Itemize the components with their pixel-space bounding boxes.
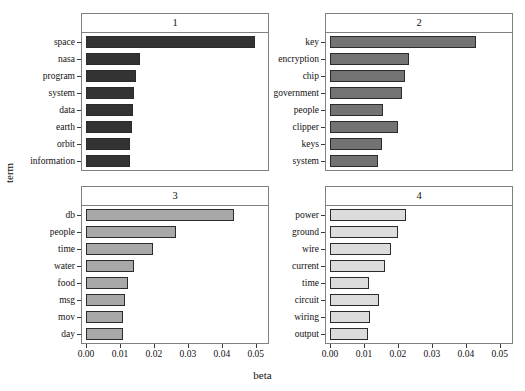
facet-strip-label-3: 3	[81, 186, 269, 206]
y-tick-mark	[77, 42, 81, 43]
x-tick-mark	[188, 344, 189, 348]
x-tick-mark	[86, 344, 87, 348]
bar	[86, 311, 123, 323]
y-tick-label: system	[0, 88, 75, 98]
y-tick-mark	[77, 59, 81, 60]
bar	[86, 328, 123, 340]
y-tick-mark	[321, 127, 325, 128]
y-tick-label: wiring	[159, 312, 319, 322]
y-tick-mark	[77, 317, 81, 318]
y-tick-label: keys	[159, 139, 319, 149]
bar	[86, 294, 125, 306]
y-tick-label: db	[0, 210, 75, 220]
y-tick-label: earth	[0, 122, 75, 132]
y-tick-mark	[321, 144, 325, 145]
y-tick-mark	[321, 42, 325, 43]
y-tick-mark	[77, 161, 81, 162]
bar	[330, 70, 405, 82]
y-tick-mark	[77, 110, 81, 111]
x-tick-mark	[364, 344, 365, 348]
y-tick-label: space	[0, 37, 75, 47]
facet-strip-label-1: 1	[81, 13, 269, 33]
x-tick-mark	[398, 344, 399, 348]
y-tick-mark	[77, 215, 81, 216]
bar-row	[326, 291, 512, 308]
bar	[86, 70, 136, 82]
y-tick-label: government	[159, 88, 319, 98]
bar	[330, 155, 378, 167]
x-tick-mark	[466, 344, 467, 348]
bar	[86, 121, 132, 133]
facet-panel-4: 4	[325, 186, 513, 344]
bar	[330, 311, 370, 323]
bar-row	[326, 84, 512, 101]
x-tick-label: 0.05	[236, 349, 276, 359]
bar-row	[326, 325, 512, 342]
bar	[330, 209, 406, 221]
bar	[330, 226, 398, 238]
y-tick-mark	[321, 110, 325, 111]
y-tick-mark	[321, 76, 325, 77]
y-tick-mark	[321, 266, 325, 267]
beta-term-facet-bar-chart: term beta 1 2 3 4 0.000.010.020.030.040.…	[0, 0, 525, 391]
x-axis-left-column: 0.000.010.020.030.040.05	[81, 344, 269, 368]
y-tick-mark	[77, 144, 81, 145]
plot-area-4	[325, 206, 513, 344]
bar-row	[326, 33, 512, 50]
y-tick-mark	[321, 232, 325, 233]
bar-row	[326, 152, 512, 169]
bar	[330, 121, 398, 133]
y-tick-mark	[77, 232, 81, 233]
facet-strip-label-4: 4	[325, 186, 513, 206]
y-tick-mark	[321, 215, 325, 216]
x-tick-mark	[154, 344, 155, 348]
plot-area-2	[325, 33, 513, 171]
y-tick-mark	[321, 283, 325, 284]
bar	[330, 36, 476, 48]
x-axis-label: beta	[0, 369, 525, 381]
bar-row	[326, 50, 512, 67]
y-tick-mark	[321, 161, 325, 162]
facet-panel-2: 2	[325, 13, 513, 171]
y-tick-label: key	[159, 37, 319, 47]
bar	[330, 87, 402, 99]
x-tick-mark	[432, 344, 433, 348]
y-tick-label: encryption	[159, 54, 319, 64]
y-tick-label: chip	[159, 71, 319, 81]
bar	[330, 294, 379, 306]
bar-row	[326, 240, 512, 257]
bar-row	[326, 274, 512, 291]
bar	[330, 53, 409, 65]
bar	[86, 260, 134, 272]
bar	[86, 53, 140, 65]
x-tick-mark	[500, 344, 501, 348]
y-tick-mark	[321, 59, 325, 60]
y-tick-label: people	[159, 105, 319, 115]
bar	[330, 328, 368, 340]
x-tick-mark	[256, 344, 257, 348]
y-tick-label: food	[0, 278, 75, 288]
y-tick-label: system	[159, 156, 319, 166]
y-tick-mark	[77, 334, 81, 335]
y-tick-mark	[321, 249, 325, 250]
y-tick-label: clipper	[159, 122, 319, 132]
bar	[86, 155, 130, 167]
x-axis-right-column: 0.000.010.020.030.040.05	[325, 344, 513, 368]
bar	[86, 138, 130, 150]
bar	[330, 277, 369, 289]
y-tick-label: ground	[159, 227, 319, 237]
y-tick-mark	[77, 249, 81, 250]
bar-row	[326, 223, 512, 240]
y-tick-label: circuit	[159, 295, 319, 305]
y-tick-mark	[77, 76, 81, 77]
x-tick-mark	[330, 344, 331, 348]
y-tick-label: people	[0, 227, 75, 237]
bar	[86, 104, 133, 116]
bar-row	[326, 308, 512, 325]
bar	[86, 87, 134, 99]
y-tick-mark	[77, 283, 81, 284]
bar-row	[326, 257, 512, 274]
y-tick-label: nasa	[0, 54, 75, 64]
y-tick-label: orbit	[0, 139, 75, 149]
x-tick-label: 0.05	[480, 349, 520, 359]
